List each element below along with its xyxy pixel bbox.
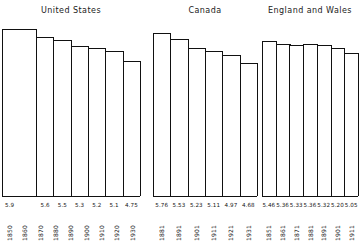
year-tick-label: 1891 — [320, 225, 327, 241]
plot-area — [153, 20, 257, 196]
year-tick-label: 1901 — [334, 225, 341, 241]
value-label-cell: 5.23 — [188, 200, 205, 210]
value-label-cell: 5.2 — [88, 200, 105, 210]
bar — [331, 48, 346, 196]
bar — [53, 40, 71, 196]
bar — [222, 55, 240, 196]
value-label-cell: 5.05 — [344, 200, 358, 210]
bar — [240, 63, 258, 196]
year-tick-label: 1850 — [6, 225, 13, 241]
bar-value-label: 5.33 — [290, 200, 303, 210]
value-label-row: 5.95.65.55.35.25.14.75 — [2, 200, 140, 210]
bar-value-label: 5.6 — [41, 200, 50, 210]
bar — [344, 53, 359, 196]
bar-value-label: 5.11 — [207, 200, 220, 210]
year-tick-label: 1851 — [265, 225, 272, 241]
value-label-cell: 5.9 — [2, 200, 37, 210]
year-tick-label: 1921 — [227, 225, 234, 241]
year-label-cell: 1891 — [317, 211, 331, 241]
value-label-cell: 5.6 — [37, 200, 54, 210]
year-tick-label: 1880 — [52, 225, 59, 241]
bar-value-label: 4.97 — [225, 200, 238, 210]
value-label-cell: 5.32 — [317, 200, 331, 210]
bar-value-label: 5.3 — [75, 200, 84, 210]
value-label-cell: 5.36 — [303, 200, 317, 210]
panel-canada: Canada 5.765.535.235.114.974.68 18811891… — [153, 0, 257, 243]
year-label-cell: 1920 — [109, 211, 124, 241]
year-label-cell: 1890 — [63, 211, 78, 241]
year-tick-label: 1891 — [175, 225, 182, 241]
year-tick-label: 1860 — [21, 225, 28, 241]
bar — [303, 44, 318, 196]
bar — [88, 48, 106, 196]
year-tick-label: 1890 — [67, 225, 74, 241]
year-label-cell: 1930 — [125, 211, 140, 241]
value-label-cell: 5.1 — [106, 200, 123, 210]
bar — [188, 48, 206, 196]
bar-value-label: 5.9 — [5, 200, 14, 210]
year-tick-label: 1861 — [279, 225, 286, 241]
year-label-cell: 1880 — [48, 211, 63, 241]
year-label-cell: 1871 — [289, 211, 303, 241]
plot-area — [2, 20, 140, 196]
value-label-cell: 5.11 — [205, 200, 222, 210]
bar — [276, 44, 291, 196]
year-label-cell: 1900 — [79, 211, 94, 241]
baseline — [2, 196, 140, 197]
bar — [2, 29, 37, 196]
bar-value-label: 5.23 — [190, 200, 203, 210]
value-label-cell: 5.20 — [331, 200, 345, 210]
year-label-cell: 1931 — [240, 211, 257, 241]
year-label-cell: 1870 — [33, 211, 48, 241]
value-label-cell: 5.76 — [153, 200, 170, 210]
bar — [205, 51, 223, 196]
value-label-cell: 4.75 — [123, 200, 140, 210]
panel-title: United States — [2, 6, 140, 15]
bar — [153, 33, 171, 197]
bar-value-label: 4.68 — [242, 200, 255, 210]
year-tick-label: 1930 — [129, 225, 136, 241]
year-label-cell: 1850 — [2, 211, 17, 241]
year-label-cell: 1860 — [17, 211, 32, 241]
bar-value-label: 5.46 — [262, 200, 275, 210]
year-tick-label: 1920 — [113, 225, 120, 241]
year-label-cell: 1901 — [188, 211, 205, 241]
bar — [71, 46, 89, 196]
bar-value-label: 4.75 — [125, 200, 138, 210]
bar-value-label: 5.1 — [110, 200, 119, 210]
value-label-cell: 5.53 — [170, 200, 187, 210]
panel-england-and-wales: England and Wales 5.465.365.335.365.325.… — [262, 0, 358, 243]
year-label-cell: 1911 — [205, 211, 222, 241]
value-label-row: 5.465.365.335.365.325.205.05 — [262, 200, 358, 210]
value-label-cell: 5.5 — [54, 200, 71, 210]
year-tick-label: 1910 — [98, 225, 105, 241]
bar — [289, 45, 304, 196]
year-label-cell: 1921 — [222, 211, 239, 241]
bar — [170, 39, 188, 196]
value-label-cell: 5.33 — [289, 200, 303, 210]
year-tick-label: 1881 — [158, 225, 165, 241]
year-label-cell: 1891 — [170, 211, 187, 241]
year-label-row: 185018601870188018901900191019201930 — [2, 211, 140, 241]
bar-chart-figure: United States 5.95.65.55.35.25.14.75 185… — [0, 0, 360, 243]
bar — [317, 45, 332, 196]
year-tick-label: 1931 — [245, 225, 252, 241]
bar-value-label: 5.76 — [155, 200, 168, 210]
panel-title: England and Wales — [262, 6, 358, 15]
bar-value-label: 5.2 — [92, 200, 101, 210]
value-label-cell: 5.3 — [71, 200, 88, 210]
bar-value-label: 5.53 — [173, 200, 186, 210]
plot-area — [262, 20, 358, 196]
bar-value-label: 5.05 — [345, 200, 358, 210]
year-tick-label: 1871 — [293, 225, 300, 241]
panel-title: Canada — [153, 6, 257, 15]
year-label-cell: 1910 — [94, 211, 109, 241]
year-tick-label: 1911 — [348, 225, 355, 241]
bar-value-label: 5.32 — [317, 200, 330, 210]
bar — [105, 51, 123, 196]
year-label-cell: 1881 — [303, 211, 317, 241]
value-label-cell: 4.97 — [222, 200, 239, 210]
value-label-cell: 4.68 — [240, 200, 257, 210]
year-tick-label: 1901 — [193, 225, 200, 241]
year-tick-label: 1900 — [83, 225, 90, 241]
